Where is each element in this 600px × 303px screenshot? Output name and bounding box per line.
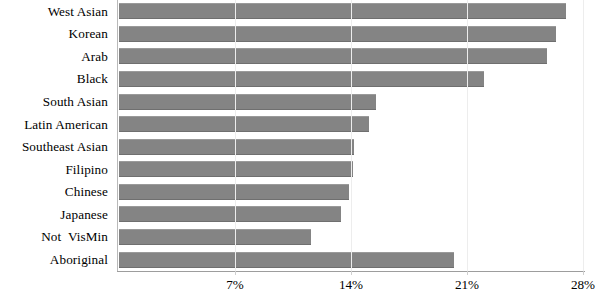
category-label: Not VisMin xyxy=(41,230,108,243)
category-label-cell: Aboriginal xyxy=(0,248,113,271)
category-label-cell: Not VisMin xyxy=(0,226,113,249)
category-label-cell: Korean xyxy=(0,23,113,46)
bar-row xyxy=(119,68,600,91)
bar-row xyxy=(119,181,600,204)
bar-row xyxy=(119,158,600,181)
category-label: Latin American xyxy=(24,118,108,131)
category-label-column: West AsianKoreanArabBlackSouth AsianLati… xyxy=(0,0,113,271)
bar xyxy=(119,116,369,132)
category-label: Aboriginal xyxy=(50,253,108,266)
y-axis-line xyxy=(117,0,118,271)
category-label: Korean xyxy=(69,27,108,40)
category-label-cell: South Asian xyxy=(0,90,113,113)
gridline xyxy=(235,0,236,271)
x-axis-tick xyxy=(235,271,236,275)
bar-row xyxy=(119,248,600,271)
bar-chart: West AsianKoreanArabBlackSouth AsianLati… xyxy=(0,0,600,303)
x-axis-tick-label: 21% xyxy=(455,277,479,293)
bar xyxy=(119,206,341,222)
bar xyxy=(119,229,311,245)
bar xyxy=(119,94,376,110)
bar-row xyxy=(119,90,600,113)
bar-row xyxy=(119,45,600,68)
category-label-cell: West Asian xyxy=(0,0,113,23)
category-label-cell: Latin American xyxy=(0,113,113,136)
bar-row xyxy=(119,135,600,158)
bar xyxy=(119,139,354,155)
category-label-cell: Chinese xyxy=(0,181,113,204)
category-label-cell: Filipino xyxy=(0,158,113,181)
category-label: South Asian xyxy=(43,95,108,108)
category-label: Arab xyxy=(81,50,108,63)
bar xyxy=(119,48,547,64)
category-label: Filipino xyxy=(65,163,108,176)
gridline xyxy=(467,0,468,271)
bar xyxy=(119,3,566,19)
x-axis-tick-label: 7% xyxy=(226,277,244,293)
bar-row xyxy=(119,0,600,23)
bar-row xyxy=(119,203,600,226)
category-label-cell: Arab xyxy=(0,45,113,68)
x-axis-tick-label: 28% xyxy=(571,277,595,293)
plot-area xyxy=(119,0,600,271)
bar-row xyxy=(119,23,600,46)
gridline xyxy=(351,0,352,271)
x-axis-tick-label: 14% xyxy=(339,277,363,293)
category-label: Japanese xyxy=(60,208,108,221)
gridline xyxy=(583,0,584,271)
category-label-cell: Southeast Asian xyxy=(0,135,113,158)
bar xyxy=(119,26,556,42)
x-axis-tick xyxy=(351,271,352,275)
category-label: West Asian xyxy=(48,5,108,18)
x-axis-tick xyxy=(467,271,468,275)
x-axis-tick xyxy=(583,271,584,275)
category-label: Southeast Asian xyxy=(22,140,108,153)
bars-layer xyxy=(119,0,600,271)
x-axis-tick-labels: 7%14%21%28% xyxy=(119,277,600,299)
category-label-cell: Japanese xyxy=(0,203,113,226)
bar-row xyxy=(119,226,600,249)
bar xyxy=(119,71,484,87)
bar xyxy=(119,252,454,268)
category-label: Black xyxy=(77,72,108,85)
category-label: Chinese xyxy=(65,185,108,198)
category-label-cell: Black xyxy=(0,68,113,91)
bar-row xyxy=(119,113,600,136)
